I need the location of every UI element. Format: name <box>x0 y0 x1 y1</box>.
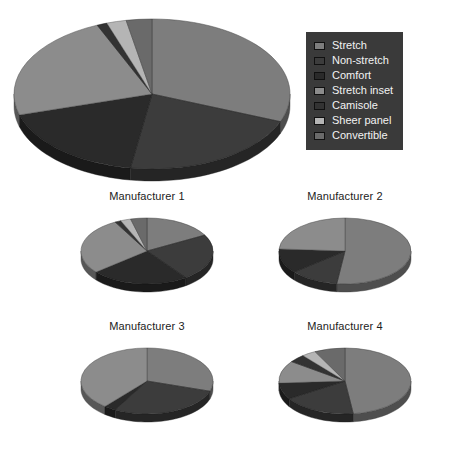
pie-slice[interactable] <box>279 218 345 251</box>
pie-svg-manufacturer-3 <box>52 334 242 429</box>
pie-svg-manufacturer-1 <box>52 204 242 299</box>
chart-manufacturer-1: Manufacturer 1 <box>52 190 242 299</box>
legend-item-camisole[interactable]: Camisole <box>314 98 393 113</box>
legend-swatch-comfort <box>314 72 325 80</box>
chart-title-manufacturer-4: Manufacturer 4 <box>250 320 440 332</box>
chart-title-manufacturer-3: Manufacturer 3 <box>52 320 242 332</box>
legend-label-sheer-panel: Sheer panel <box>332 114 391 127</box>
legend-label-comfort: Comfort <box>332 69 371 82</box>
legend-swatch-camisole <box>314 102 325 110</box>
chart-manufacturer-4: Manufacturer 4 <box>250 320 440 429</box>
chart-title-manufacturer-2: Manufacturer 2 <box>250 190 440 202</box>
legend-item-stretch-inset[interactable]: Stretch inset <box>314 83 393 98</box>
legend-swatch-stretch-inset <box>314 87 325 95</box>
chart-manufacturer-3: Manufacturer 3 <box>52 320 242 429</box>
pie-svg-overall <box>8 14 296 184</box>
legend-item-convertible[interactable]: Convertible <box>314 128 393 143</box>
legend-item-sheer-panel[interactable]: Sheer panel <box>314 113 393 128</box>
pie-canvas-manufacturer-3 <box>52 334 242 429</box>
pie-svg-manufacturer-2 <box>250 204 440 299</box>
legend-label-non-stretch: Non-stretch <box>332 54 389 67</box>
pie-canvas-manufacturer-2 <box>250 204 440 299</box>
legend-label-stretch: Stretch <box>332 39 367 52</box>
legend-item-comfort[interactable]: Comfort <box>314 68 393 83</box>
legend: Stretch Non-stretch Comfort Stretch inse… <box>306 32 403 150</box>
legend-label-camisole: Camisole <box>332 99 378 112</box>
legend-label-convertible: Convertible <box>332 129 388 142</box>
pie-canvas-overall <box>8 14 296 184</box>
legend-swatch-stretch <box>314 42 325 50</box>
chart-overall <box>8 14 296 184</box>
chart-manufacturer-2: Manufacturer 2 <box>250 190 440 299</box>
legend-item-non-stretch[interactable]: Non-stretch <box>314 53 393 68</box>
legend-swatch-sheer-panel <box>314 117 325 125</box>
pie-canvas-manufacturer-1 <box>52 204 242 299</box>
legend-label-stretch-inset: Stretch inset <box>332 84 393 97</box>
pie-chart-figure: Stretch Non-stretch Comfort Stretch inse… <box>0 0 454 455</box>
legend-swatch-non-stretch <box>314 57 325 65</box>
legend-item-stretch[interactable]: Stretch <box>314 38 393 53</box>
pie-svg-manufacturer-4 <box>250 334 440 429</box>
chart-title-manufacturer-1: Manufacturer 1 <box>52 190 242 202</box>
legend-swatch-convertible <box>314 132 325 140</box>
pie-canvas-manufacturer-4 <box>250 334 440 429</box>
